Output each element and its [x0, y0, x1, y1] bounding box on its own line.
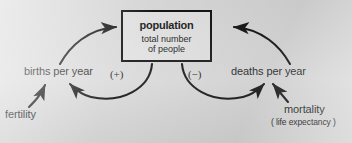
population-subtitle-line1: total number: [141, 34, 191, 44]
polarity-sign-positive: (+): [110, 69, 123, 81]
population-subtitle-line2: of people: [148, 44, 185, 54]
population-node: population total number of people: [121, 10, 212, 62]
node-label-deaths: deaths per year: [231, 66, 306, 78]
link-births-to-population: [60, 27, 116, 64]
population-node-subtitle: total number of people: [123, 34, 210, 55]
population-node-title: population: [123, 19, 210, 31]
node-label-mortality: mortality: [284, 104, 325, 116]
causal-loop-diagram: population total number of people births…: [0, 0, 352, 143]
polarity-sign-negative: (−): [188, 69, 201, 81]
node-label-births: births per year: [24, 66, 93, 78]
link-fertility-to-births: [29, 85, 45, 107]
node-label-life-expectancy: ( life expectancy ): [271, 118, 336, 127]
link-deaths-to-population: [234, 27, 290, 64]
node-label-fertility: fertility: [5, 109, 36, 121]
link-mortality-to-deaths: [273, 84, 288, 102]
